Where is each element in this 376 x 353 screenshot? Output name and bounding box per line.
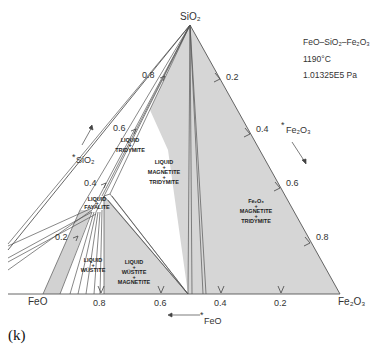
- temperature-label: 1190°C: [303, 54, 331, 64]
- svg-text:TRIDYMITE: TRIDYMITE: [149, 179, 179, 185]
- fe2o3-axis-marker: *: [281, 120, 285, 130]
- vertex-sio2: SiO₂: [180, 11, 201, 22]
- fe2o3-tick-0.6: 0.6: [286, 178, 299, 188]
- svg-text:FAYALITE: FAYALITE: [84, 204, 110, 210]
- vertex-feo: FeO: [28, 296, 48, 307]
- vertex-fe2o3: Fe₂O₃: [338, 296, 365, 307]
- feo-tick-0.4: 0.4: [214, 298, 227, 308]
- phase-label-liquid-tridymite: LIQUID + TRIDYMITE: [115, 137, 145, 153]
- pressure-label: 1.01325E5 Pa: [303, 70, 357, 80]
- svg-text:WÜSTITE: WÜSTITE: [81, 267, 106, 273]
- figure-caption: (k): [8, 327, 26, 344]
- fe2o3-tick-0.8: 0.8: [316, 232, 329, 242]
- sio2-tick-0.6: 0.6: [113, 123, 126, 133]
- feo-axis-label: FeO: [204, 316, 222, 326]
- svg-text:MAGNETITE: MAGNETITE: [118, 279, 151, 285]
- feo-tick-0.6: 0.6: [154, 298, 167, 308]
- feo-tick-0.8: 0.8: [93, 298, 106, 308]
- feo-axis-marker: *: [200, 310, 204, 320]
- sio2-tick-0.2: 0.2: [55, 232, 68, 242]
- sio2-tick-0.4: 0.4: [84, 178, 97, 188]
- fe2o3-tick-0.4: 0.4: [256, 124, 269, 134]
- fe2o3-tick-0.2: 0.2: [226, 72, 239, 82]
- system-title: FeO–SiO₂–Fe₂O₃: [303, 37, 370, 47]
- sio2-axis-marker: *: [72, 152, 76, 162]
- ternary-phase-diagram: SiO₂ FeO Fe₂O₃ 0.8 0.6 0.4 0.2 SiO₂ * 0.…: [0, 0, 376, 353]
- svg-text:TRIDYMITE: TRIDYMITE: [241, 218, 271, 224]
- svg-text:TRIDYMITE: TRIDYMITE: [115, 147, 145, 153]
- feo-tick-0.2: 0.2: [274, 298, 287, 308]
- fe2o3-axis-label: Fe₂O₃: [286, 125, 311, 135]
- sio2-tick-0.8: 0.8: [142, 70, 155, 80]
- sio2-axis-label: SiO₂: [76, 155, 95, 165]
